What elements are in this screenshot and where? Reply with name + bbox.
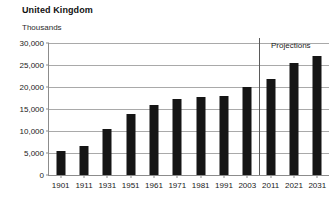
bar-group: 1971: [166, 43, 189, 175]
x-axis-tick-label: 2003: [238, 181, 256, 190]
x-axis-tick-mark: [223, 175, 224, 178]
bar-group: 2021: [282, 43, 305, 175]
bar-group: 2031: [306, 43, 329, 175]
y-axis-tick-label: 15,000: [20, 105, 44, 114]
x-axis-tick-label: 1991: [215, 181, 233, 190]
y-axis-tick-label: 30,000: [20, 39, 44, 48]
bar-group: 1911: [72, 43, 95, 175]
y-axis-tick-label: 25,000: [20, 61, 44, 70]
x-axis-tick-mark: [247, 175, 248, 178]
bar[interactable]: [313, 56, 322, 175]
x-axis-tick-mark: [153, 175, 154, 178]
bar-group: 1961: [142, 43, 165, 175]
bar[interactable]: [103, 129, 112, 175]
x-axis-tick-mark: [270, 175, 271, 178]
projection-divider: [259, 38, 260, 175]
bar-group: 2011: [259, 43, 282, 175]
bar[interactable]: [173, 99, 182, 175]
x-axis-tick-label: 1981: [192, 181, 210, 190]
x-axis-tick-label: 1911: [75, 181, 92, 190]
bar[interactable]: [79, 146, 88, 175]
bar-group: 1991: [212, 43, 235, 175]
bar[interactable]: [149, 105, 158, 175]
x-axis-tick-label: 1931: [98, 181, 116, 190]
x-axis-tick-mark: [83, 175, 84, 178]
bar-group: 1931: [96, 43, 119, 175]
x-axis-tick-label: 1901: [52, 181, 70, 190]
x-axis-tick-mark: [293, 175, 294, 178]
chart-axis-unit-label: Thousands: [22, 23, 62, 32]
y-axis-tick-label: 20,000: [20, 83, 44, 92]
x-axis-tick-label: 1971: [168, 181, 186, 190]
x-axis-tick-mark: [60, 175, 61, 178]
bar-group: 1901: [49, 43, 72, 175]
bar-group: 1951: [119, 43, 142, 175]
y-axis-tick-label: 0: [40, 171, 44, 180]
y-axis-tick-label: 10,000: [20, 127, 44, 136]
bar[interactable]: [56, 151, 65, 175]
bars-and-x-axis: 1901191119311951196119711981199120032011…: [49, 43, 329, 175]
x-axis-tick-mark: [107, 175, 108, 178]
bar[interactable]: [289, 63, 298, 175]
x-axis-tick-label: 2011: [262, 181, 279, 190]
bar[interactable]: [266, 79, 275, 175]
bar[interactable]: [219, 96, 228, 175]
bar[interactable]: [196, 97, 205, 175]
x-axis-tick-mark: [177, 175, 178, 178]
x-axis-tick-mark: [130, 175, 131, 178]
x-axis-tick-mark: [317, 175, 318, 178]
chart-title: United Kingdom: [22, 5, 93, 15]
y-axis-tick-label: 5,000: [24, 149, 44, 158]
chart-figure: United Kingdom Thousands 30,00025,00020,…: [0, 0, 335, 201]
x-axis-tick-label: 1951: [122, 181, 140, 190]
x-axis-tick-label: 1961: [145, 181, 163, 190]
x-axis-tick-label: 2031: [308, 181, 326, 190]
bar[interactable]: [126, 114, 135, 175]
x-axis-tick-label: 2021: [285, 181, 303, 190]
plot-area: 30,00025,00020,00015,00010,0005,0000 190…: [48, 43, 329, 176]
x-axis-tick-mark: [200, 175, 201, 178]
projection-annotation-label: Projections: [271, 41, 311, 50]
bar-group: 2003: [236, 43, 259, 175]
bar[interactable]: [243, 87, 252, 175]
bar-group: 1981: [189, 43, 212, 175]
